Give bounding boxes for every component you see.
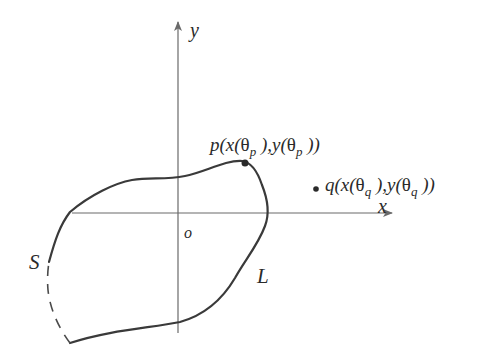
- curve-l: [49, 161, 268, 343]
- point-p-label: p(x(θp ),y(θp )): [210, 135, 320, 154]
- point-q-subscript-2: q: [411, 184, 418, 199]
- x-axis-label: x: [378, 196, 387, 216]
- point-p-subscript: p: [250, 144, 257, 159]
- point-p-theta: θ: [241, 134, 250, 155]
- curve-label-l: L: [257, 266, 269, 287]
- y-axis-label: y: [190, 20, 199, 40]
- point-q-subscript: q: [365, 184, 372, 199]
- origin-label: o: [184, 225, 192, 241]
- point-q-middle: ),y(: [371, 174, 402, 195]
- point-q-theta-2: θ: [402, 174, 411, 195]
- curve-segment-s-dashed: [48, 262, 70, 343]
- point-p-theta-2: θ: [287, 134, 296, 155]
- point-q-theta: θ: [356, 174, 365, 195]
- point-q-label: q(x(θq ),y(θq )): [325, 175, 435, 194]
- point-p-suffix: )): [302, 134, 319, 155]
- curve-label-s: S: [29, 252, 40, 273]
- point-q-dot: [313, 186, 319, 192]
- point-p-prefix: p(x(: [210, 134, 241, 155]
- point-q-suffix: )): [417, 174, 434, 195]
- point-p-subscript-2: p: [296, 144, 303, 159]
- point-p-middle: ),y(: [256, 134, 287, 155]
- point-q-prefix: q(x(: [325, 174, 356, 195]
- point-p-dot: [242, 160, 249, 167]
